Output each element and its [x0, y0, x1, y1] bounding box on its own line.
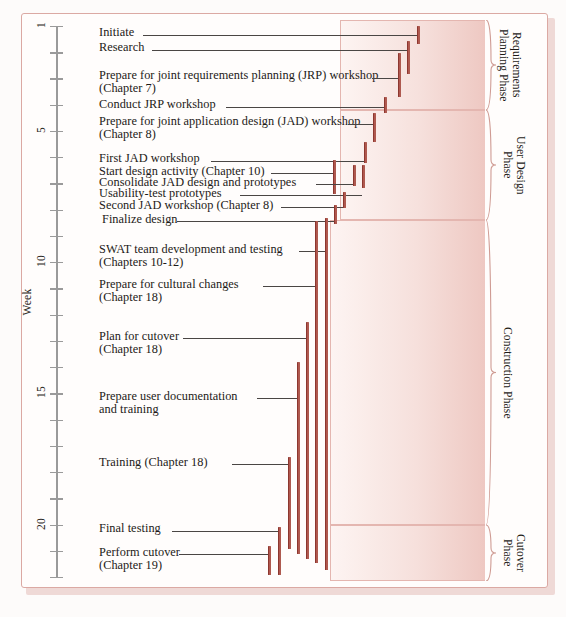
week-tick-2: [50, 52, 63, 53]
task-leader-line-first-jad: [211, 161, 364, 162]
task-leader-line-perform-cutover: [179, 554, 268, 555]
task-leader-line-prepare-jrp: [372, 78, 398, 79]
task-bar-prepare-jad: [373, 113, 376, 142]
phase-brace-requirements-planning: [486, 20, 497, 110]
task-bar-user-documentation: [297, 362, 300, 554]
week-tick-14: [50, 367, 63, 368]
task-leader-line-swat-team: [299, 251, 325, 252]
task-leader-line-cultural-changes: [263, 286, 315, 287]
task-label-line1: First JAD workshop: [99, 151, 200, 165]
task-bar-first-jad: [364, 142, 367, 163]
task-label-user-documentation: Prepare user documentationand training: [99, 390, 238, 417]
task-label-line2: (Chapters 10-12): [99, 256, 283, 269]
task-label-swat-team: SWAT team development and testing(Chapte…: [99, 243, 283, 270]
task-bar-start-design: [333, 160, 336, 194]
task-leader-line-conduct-jrp: [226, 107, 384, 108]
task-label-line1: Perform cutover: [99, 545, 180, 559]
week-tick-13: [50, 341, 63, 342]
phase-label-requirements-planning: Requirements Planning Phase: [497, 20, 523, 110]
week-tick-label-20: 20: [35, 513, 47, 535]
week-tick-label-10: 10: [35, 250, 47, 272]
week-axis-title: Week: [21, 267, 33, 337]
task-label-conduct-jrp: Conduct JRP workshop: [99, 98, 216, 111]
phase-band-requirements-planning: [340, 20, 485, 110]
phase-brace-user-design: [486, 110, 497, 220]
task-label-line2: and training: [99, 403, 238, 416]
task-bar-perform-cutover: [268, 546, 271, 575]
task-bar-cultural-changes: [315, 221, 318, 563]
phase-brace-cutover: [486, 525, 497, 581]
phase-label-text: Cutover Phase: [501, 534, 527, 572]
task-leader-line-prepare-jad: [348, 124, 373, 125]
cropped-caption-text: [24, 608, 404, 617]
phase-label-construction: Construction Phase: [501, 220, 514, 525]
gantt-figure: Requirements Planning PhaseUser Design P…: [0, 0, 566, 617]
week-tick-label-1: 1: [35, 14, 47, 36]
task-label-line1: Prepare for joint requirements planning …: [99, 68, 378, 82]
phase-band-cutover: [330, 525, 485, 581]
task-label-second-jad: Second JAD workshop (Chapter 8): [99, 199, 273, 212]
task-bar-initiate: [417, 26, 420, 44]
task-bar-plan-cutover: [306, 322, 309, 559]
task-bar-finalize-design: [334, 205, 337, 224]
task-label-line1: Finalize design: [102, 212, 178, 226]
task-label-final-testing: Final testing: [99, 522, 161, 535]
task-label-line1: Prepare user documentation: [99, 389, 238, 403]
week-tick-1: [50, 26, 63, 27]
task-bar-conduct-jrp: [384, 97, 387, 113]
task-label-prepare-jrp: Prepare for joint requirements planning …: [99, 69, 378, 96]
task-leader-line-initiate: [143, 35, 417, 36]
task-bar-swat-team: [325, 218, 328, 570]
task-label-line1: Conduct JRP workshop: [99, 97, 216, 111]
phase-band-construction: [330, 220, 485, 525]
week-tick-4: [50, 105, 63, 106]
week-tick-label-5: 5: [35, 119, 47, 141]
task-label-training: Training (Chapter 18): [99, 456, 208, 469]
task-bar-prepare-jrp: [398, 53, 401, 97]
task-label-line1: Second JAD workshop (Chapter 8): [99, 198, 273, 212]
week-tick-9: [50, 236, 63, 237]
phase-label-user-design: User Design Phase: [501, 110, 527, 220]
week-tick-7: [50, 183, 63, 184]
task-label-line1: Prepare for cultural changes: [99, 277, 239, 291]
task-label-research: Research: [99, 41, 144, 54]
week-tick-21: [50, 551, 63, 552]
week-tick-20: [50, 525, 63, 526]
week-tick-22: [50, 577, 63, 578]
task-label-line2: (Chapter 7): [99, 82, 378, 95]
week-tick-8: [50, 210, 63, 211]
task-leader-line-final-testing: [172, 531, 278, 532]
week-tick-19: [50, 498, 63, 499]
task-leader-line-consolidate-jad: [316, 184, 353, 185]
task-label-line1: Research: [99, 40, 144, 54]
task-bar-training: [288, 457, 291, 549]
phase-label-text: User Design Phase: [501, 136, 527, 195]
week-tick-18: [50, 472, 63, 473]
task-label-plan-cutover: Plan for cutover(Chapter 18): [99, 330, 179, 357]
task-bar-final-testing: [278, 527, 281, 575]
week-tick-10: [50, 262, 63, 263]
task-label-line2: (Chapter 19): [99, 559, 180, 572]
task-label-initiate: Initiate: [99, 26, 134, 39]
task-label-line1: Initiate: [99, 25, 134, 39]
week-axis-line: [56, 26, 58, 577]
task-leader-line-finalize-design: [177, 221, 334, 222]
task-label-line1: Plan for cutover: [99, 329, 179, 343]
week-tick-16: [50, 420, 63, 421]
task-label-prepare-jad: Prepare for joint application design (JA…: [99, 115, 360, 142]
phase-label-text: Construction Phase: [501, 327, 514, 419]
week-tick-17: [50, 446, 63, 447]
task-label-perform-cutover: Perform cutover(Chapter 19): [99, 546, 180, 573]
phase-label-text: Requirements Planning Phase: [497, 29, 523, 102]
week-tick-3: [50, 78, 63, 79]
week-tick-11: [50, 288, 63, 289]
phase-label-cutover: Cutover Phase: [501, 525, 527, 581]
task-label-line1: SWAT team development and testing: [99, 242, 283, 256]
week-tick-12: [50, 315, 63, 316]
task-label-line2: (Chapter 18): [99, 343, 179, 356]
task-bar-usability-test: [362, 165, 365, 188]
phase-brace-construction: [486, 220, 497, 525]
task-bar-consolidate-jad: [353, 165, 356, 186]
task-leader-line-user-documentation: [257, 398, 297, 399]
task-bar-second-jad: [343, 192, 346, 208]
